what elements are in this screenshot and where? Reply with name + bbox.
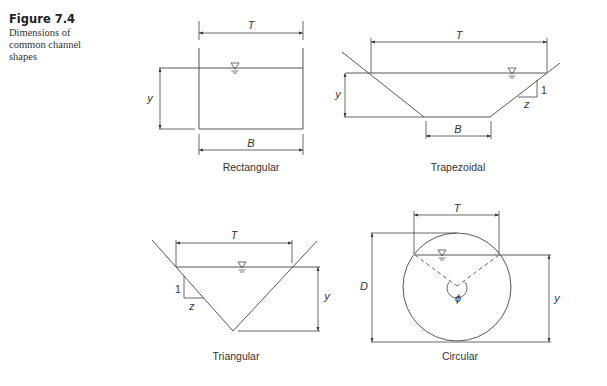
shape-name-circular: Circular (442, 350, 479, 362)
depth-label: y (334, 88, 342, 100)
top-width-label: T (456, 29, 464, 41)
top-width-label: T (231, 229, 239, 241)
slope-vertical-label: 1 (541, 84, 547, 96)
channel-shapes-diagram: T y B Rectangular T y B 1 z Trapezoidal (0, 0, 607, 386)
top-width-label: T (454, 202, 462, 214)
circular-channel: ϕ T D y Circular (360, 202, 561, 362)
shape-name-triangular: Triangular (213, 350, 260, 362)
depth-label: y (553, 292, 561, 304)
slope-horizontal-label: z (523, 98, 530, 110)
depth-label: y (146, 92, 154, 104)
slope-vertical-label: 1 (175, 283, 181, 295)
angle-label: ϕ (455, 292, 461, 304)
rectangular-channel: T y B Rectangular (146, 19, 303, 173)
bottom-width-label: B (454, 123, 461, 135)
depth-label: y (323, 290, 331, 302)
trapezoidal-channel: T y B 1 z Trapezoidal (334, 29, 560, 173)
shape-name-rectangular: Rectangular (223, 161, 280, 173)
triangular-channel: T y 1 z Triangular (152, 229, 331, 362)
shape-name-trapezoidal: Trapezoidal (431, 161, 485, 173)
top-width-label: T (248, 19, 256, 31)
bottom-width-label: B (247, 137, 254, 149)
diameter-label: D (360, 280, 368, 292)
slope-horizontal-label: z (188, 300, 195, 312)
